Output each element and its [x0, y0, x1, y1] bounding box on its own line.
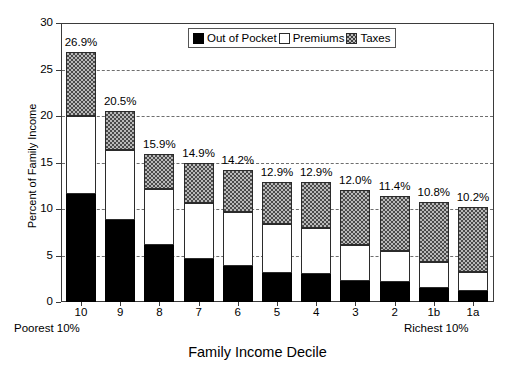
bar-total-label: 14.2%	[215, 154, 261, 166]
chart-figure: Percent of Family Income 051015202530 26…	[0, 0, 515, 370]
x-axis-title: Family Income Decile	[0, 344, 515, 360]
x-axis-tick-label: 5	[257, 306, 297, 318]
bar-segment-taxes	[458, 207, 488, 272]
bar-segment-out-of-pocket	[419, 288, 449, 302]
stacked-bar[interactable]	[144, 23, 174, 302]
checkered-gray-swatch	[346, 33, 357, 44]
white-swatch	[279, 33, 290, 44]
y-axis-tick-label: 15	[23, 157, 53, 167]
bar-segment-out-of-pocket	[66, 194, 96, 302]
x-axis-tick-label: 3	[335, 306, 375, 318]
bar-segment-out-of-pocket	[380, 282, 410, 302]
x-axis-tick-mark	[120, 302, 121, 306]
x-axis-tick-mark	[277, 302, 278, 306]
bar-segment-taxes	[301, 182, 331, 228]
legend-item[interactable]: Out of Pocket	[193, 32, 277, 44]
x-axis-tick-label: 1b	[414, 306, 454, 318]
x-axis-tick-mark	[199, 302, 200, 306]
x-axis-tick-label: 7	[179, 306, 219, 318]
y-axis-tick-label: 0	[23, 296, 53, 306]
bar-segment-premiums	[301, 228, 331, 275]
x-axis-tick-mark	[81, 302, 82, 306]
y-axis-tick-mark	[56, 209, 61, 210]
stacked-bar[interactable]	[105, 23, 135, 302]
bar-segment-out-of-pocket	[458, 291, 488, 302]
y-axis-tick-mark	[56, 116, 61, 117]
x-axis-tick-label: 10	[61, 306, 101, 318]
legend-item[interactable]: Premiums	[279, 32, 345, 44]
bar-segment-out-of-pocket	[262, 273, 292, 302]
y-axis-tick-mark	[56, 163, 61, 164]
bar-segment-out-of-pocket	[340, 281, 370, 302]
x-axis-tick-mark	[316, 302, 317, 306]
bar-segment-premiums	[340, 245, 370, 280]
bar-segment-premiums	[66, 116, 96, 194]
bar-segment-out-of-pocket	[223, 266, 253, 302]
x-axis-tick-label: 1a	[453, 306, 493, 318]
x-axis-tick-mark	[159, 302, 160, 306]
x-axis-tick-mark	[395, 302, 396, 306]
bar-segment-taxes	[184, 163, 214, 203]
x-axis-tick-label: 6	[218, 306, 258, 318]
stacked-bar[interactable]	[262, 23, 292, 302]
x-axis-tick-mark	[355, 302, 356, 306]
y-axis-tick-mark	[56, 256, 61, 257]
x-axis-tick-label: 9	[100, 306, 140, 318]
bar-segment-out-of-pocket	[184, 259, 214, 302]
stacked-bar[interactable]	[184, 23, 214, 302]
x-axis-tick-mark	[473, 302, 474, 306]
bar-segment-premiums	[144, 189, 174, 245]
bar-segment-taxes	[223, 170, 253, 212]
stacked-bar[interactable]	[340, 23, 370, 302]
y-axis-tick-label: 5	[23, 250, 53, 260]
x-axis-tick-label: 8	[139, 306, 179, 318]
poorest-annotation: Poorest 10%	[14, 322, 80, 334]
y-axis-tick-label: 25	[23, 64, 53, 74]
legend-item[interactable]: Taxes	[346, 32, 390, 44]
stacked-bar[interactable]	[458, 23, 488, 302]
bar-segment-taxes	[340, 190, 370, 245]
legend-item-label: Taxes	[360, 32, 390, 44]
bar-total-label: 20.5%	[97, 95, 143, 107]
bar-segment-premiums	[262, 224, 292, 273]
bar-segment-taxes	[144, 154, 174, 189]
stacked-bar[interactable]	[301, 23, 331, 302]
x-axis-tick-mark	[434, 302, 435, 306]
bar-segment-premiums	[105, 150, 135, 220]
legend-item-label: Premiums	[293, 32, 345, 44]
bar-segment-out-of-pocket	[301, 274, 331, 302]
bar-total-label: 26.9%	[58, 36, 104, 48]
y-axis-tick-label: 10	[23, 203, 53, 213]
bar-segment-premiums	[223, 212, 253, 266]
bar-segment-taxes	[262, 182, 292, 224]
bar-segment-premiums	[458, 272, 488, 291]
solid-black-swatch	[193, 33, 204, 44]
x-axis-tick-label: 2	[375, 306, 415, 318]
y-axis-tick-mark	[56, 302, 61, 303]
y-axis-tick-label: 30	[23, 17, 53, 27]
bar-segment-premiums	[419, 262, 449, 288]
chart-legend: Out of PocketPremiumsTaxes	[188, 28, 396, 48]
y-axis-tick-mark	[56, 23, 61, 24]
x-axis-tick-mark	[238, 302, 239, 306]
bar-segment-premiums	[184, 203, 214, 259]
bar-total-label: 10.2%	[450, 191, 496, 203]
stacked-bar[interactable]	[419, 23, 449, 302]
bar-segment-out-of-pocket	[105, 220, 135, 302]
bar-segment-taxes	[105, 111, 135, 150]
y-axis-tick-mark	[56, 70, 61, 71]
richest-annotation: Richest 10%	[404, 322, 469, 334]
bar-segment-out-of-pocket	[144, 245, 174, 302]
stacked-bar[interactable]	[380, 23, 410, 302]
stacked-bar[interactable]	[66, 23, 96, 302]
bar-segment-taxes	[66, 52, 96, 116]
x-axis-tick-label: 4	[296, 306, 336, 318]
legend-item-label: Out of Pocket	[207, 32, 277, 44]
y-axis-tick-label: 20	[23, 110, 53, 120]
bar-segment-taxes	[380, 196, 410, 251]
bar-segment-premiums	[380, 251, 410, 283]
bar-segment-taxes	[419, 202, 449, 262]
